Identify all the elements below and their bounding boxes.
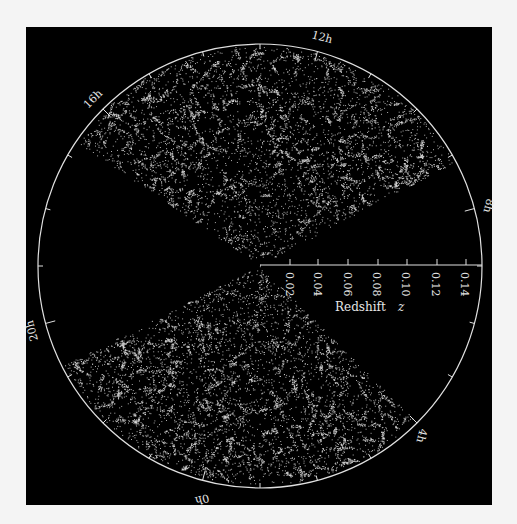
tick-label-0.12: 0.12: [429, 272, 442, 297]
tick-label-0.08: 0.08: [370, 272, 383, 297]
hour-label-20h: 20h: [23, 319, 41, 343]
redshift-tick-marks: [290, 259, 466, 265]
hour-label-4h: 4h: [413, 427, 429, 444]
redshift-axis-symbol: z: [397, 300, 405, 314]
hour-label-0h: 0h: [194, 491, 211, 507]
galaxy-points: [65, 48, 453, 484]
tick-label-0.02: 0.02: [283, 272, 296, 297]
hour-ticks: [38, 44, 482, 488]
tick-label-0.06: 0.06: [341, 272, 354, 297]
hour-label-12h: 12h: [310, 28, 334, 46]
hour-label-16h: 16h: [81, 87, 105, 111]
tick-label-0.04: 0.04: [311, 272, 324, 297]
tick-label-0.14: 0.14: [458, 272, 471, 297]
redshift-cone-diagram: 0.02 0.04 0.06 0.08 0.10 0.12 0.14 Redsh…: [0, 0, 517, 524]
redshift-axis-title: Redshift: [335, 300, 386, 314]
tick-label-0.10: 0.10: [399, 272, 412, 297]
hour-label-8h: 8h: [480, 197, 496, 214]
